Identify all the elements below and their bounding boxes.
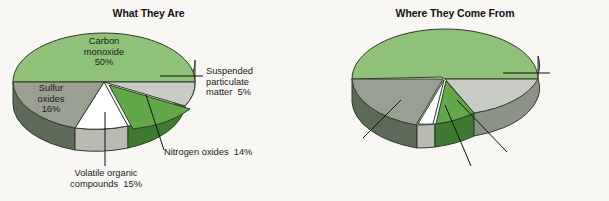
- pie-chart-where-they-come-from: [305, 0, 609, 201]
- slice-top-transportation: [352, 29, 538, 79]
- pie-label-suspended-particulate-matter: Suspended particulate matter 5%: [206, 66, 302, 98]
- chart-panel-where-they-come-from: Where They Come From Transportation 49% …: [305, 0, 609, 201]
- chart-panel-what-they-are: What They Are Carbon monoxide 50% Sulfur…: [0, 0, 305, 201]
- pie-label-sulfur-oxides: Sulfur oxides 16%: [14, 83, 88, 115]
- slice-side-solid-waste-disposal: [417, 124, 435, 148]
- pie-label-nitrogen-oxides: Nitrogen oxides 14%: [164, 147, 304, 158]
- pie-label-carbon-monoxide: Carbon monoxide 50%: [52, 36, 156, 68]
- slice-side-volatile-organic-compounds: [75, 126, 128, 151]
- pie-label-volatile-organic-compounds: Volatile organic compounds 15%: [38, 168, 174, 189]
